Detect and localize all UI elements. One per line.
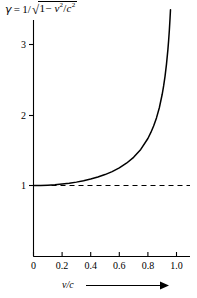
x-axis-ticks [34,252,177,257]
x-tick-label-0.4: 0.4 [79,260,103,271]
y-tick-label-3: 3 [14,39,26,50]
y-tick-label-2: 2 [14,110,26,121]
x-axis-caption: v/c [62,279,74,290]
relativistic-gamma-figure: γ=1/√1− v2/c2 1 [0,0,197,298]
x-tick-label-0.2: 0.2 [50,260,74,271]
x-tick-label-0: 0 [22,260,46,271]
y-axis-ticks [29,45,34,186]
x-tick-label-0.8: 0.8 [136,260,160,271]
y-tick-label-1: 1 [14,180,26,191]
gamma-curve-path [34,10,171,186]
x-tick-label-1.0: 1.0 [165,260,189,271]
plot-canvas [0,0,197,298]
x-tick-label-0.6: 0.6 [107,260,131,271]
x-axis-arrow-icon [86,282,169,290]
